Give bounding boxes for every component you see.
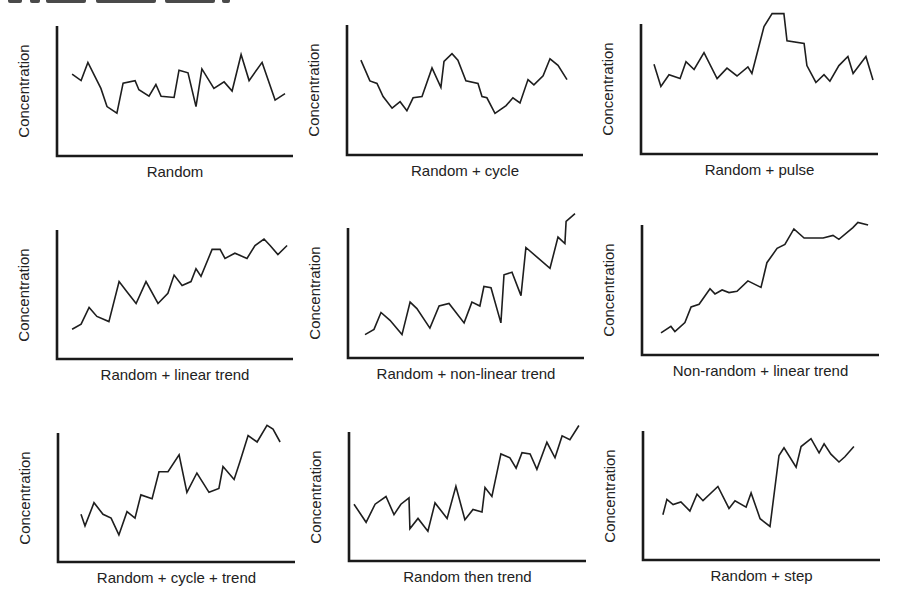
y-axis-label: Concentration <box>599 42 616 135</box>
chart-plot-area <box>347 25 583 155</box>
axes <box>347 25 583 155</box>
panel-random-pulse: ConcentrationRandom + pulse <box>641 24 878 154</box>
concentration-series-line <box>654 14 873 87</box>
x-axis-label: Random + non-linear trend <box>377 365 556 382</box>
y-axis-label: Concentration <box>307 450 324 543</box>
concentration-series-line <box>663 439 854 527</box>
y-axis-label: Concentration <box>15 44 32 137</box>
chart-plot-area <box>642 225 879 355</box>
axes <box>58 433 295 562</box>
panel-random-cycle-trend: ConcentrationRandom + cycle + trend <box>58 433 295 562</box>
chart-plot-area <box>641 24 878 154</box>
x-axis-label: Non-random + linear trend <box>673 362 849 379</box>
panel-random-nonlinear-trend: ConcentrationRandom + non-linear trend <box>348 228 584 358</box>
panel-random: ConcentrationRandom <box>57 26 293 156</box>
chart-plot-area <box>57 230 293 359</box>
panel-random-step: ConcentrationRandom + step <box>643 431 880 560</box>
x-axis-label: Random + cycle + trend <box>97 569 256 586</box>
concentration-series-line <box>72 239 287 329</box>
axes <box>57 230 293 359</box>
panel-random-then-trend: ConcentrationRandom then trend <box>349 432 586 561</box>
panel-nonrandom-linear-trend: ConcentrationNon-random + linear trend <box>642 225 879 355</box>
y-axis-label: Concentration <box>16 451 33 544</box>
concentration-series-line <box>72 55 285 114</box>
chart-plot-area <box>58 433 295 562</box>
concentration-series-line <box>81 425 280 535</box>
x-axis-label: Random + linear trend <box>101 366 250 383</box>
x-axis-label: Random <box>147 163 204 180</box>
concentration-series-line <box>354 426 579 532</box>
y-axis-label: Concentration <box>306 246 323 339</box>
chart-plot-area <box>349 432 586 561</box>
axes <box>348 228 584 358</box>
panel-random-linear-trend: ConcentrationRandom + linear trend <box>57 230 293 359</box>
cropped-title-fragment <box>0 0 899 6</box>
y-axis-label: Concentration <box>601 449 618 542</box>
x-axis-label: Random + step <box>710 567 812 584</box>
axes <box>349 432 586 561</box>
x-axis-label: Random + pulse <box>705 161 815 178</box>
x-axis-label: Random then trend <box>403 568 531 585</box>
y-axis-label: Concentration <box>305 43 322 136</box>
concentration-series-line <box>661 222 868 333</box>
chart-plot-area <box>57 26 293 156</box>
x-axis-label: Random + cycle <box>411 162 519 179</box>
chart-plot-area <box>643 431 880 560</box>
concentration-series-line <box>361 54 567 114</box>
axes <box>643 431 880 560</box>
y-axis-label: Concentration <box>15 248 32 341</box>
axes <box>642 225 879 355</box>
chart-plot-area <box>348 228 584 358</box>
y-axis-label: Concentration <box>600 243 617 336</box>
concentration-series-line <box>365 214 575 335</box>
panel-random-cycle: ConcentrationRandom + cycle <box>347 25 583 155</box>
